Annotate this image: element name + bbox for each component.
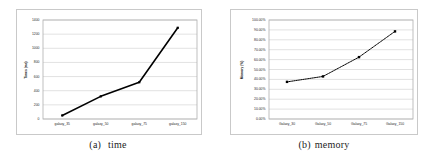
data-point-marker — [358, 56, 360, 58]
data-point-marker — [322, 75, 324, 77]
data-point-marker — [286, 81, 288, 83]
series-line — [287, 31, 395, 81]
data-point-marker — [100, 95, 102, 97]
caption-b-tag: (b) — [299, 139, 311, 150]
figure-container: Times (ms) 0200400600800100012001400 gal… — [0, 0, 432, 162]
series-line — [62, 28, 178, 116]
figure-panel-a: Times (ms) 0200400600800100012001400 gal… — [0, 0, 216, 162]
data-point-marker — [177, 27, 179, 29]
data-point-marker — [61, 114, 63, 116]
plot-border — [43, 20, 197, 119]
caption-b-text: memory — [315, 139, 350, 150]
figure-caption-b: (b)memory — [216, 139, 432, 150]
figure-caption-a: (a)time — [0, 139, 216, 150]
time-chart: Times (ms) 0200400600800100012001400 gal… — [16, 9, 202, 135]
data-point-marker — [138, 81, 140, 83]
memory-chart: Memory (%) 0.00%10.00%20.00%30.00%40.00%… — [230, 9, 418, 135]
caption-a-text: time — [108, 139, 127, 150]
time-chart-plot-area — [17, 10, 203, 136]
data-point-marker — [394, 30, 396, 32]
caption-a-tag: (a) — [89, 139, 101, 150]
memory-chart-plot-area — [231, 10, 419, 136]
figure-panel-b: Memory (%) 0.00%10.00%20.00%30.00%40.00%… — [216, 0, 432, 162]
